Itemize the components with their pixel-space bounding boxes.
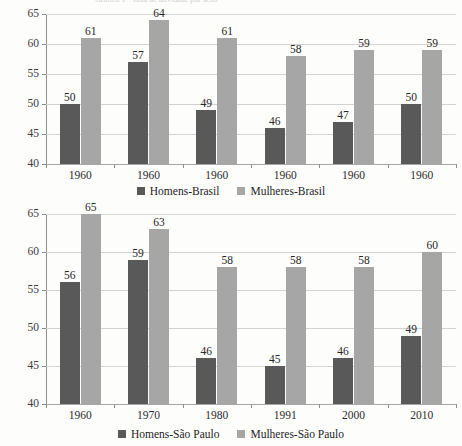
x-axis-label: 1960 [183,169,251,182]
legend-swatch-icon [118,430,126,438]
x-tick [388,404,389,408]
x-tick [388,164,389,168]
y-axis-label-45: 45 [28,360,40,372]
bar-group: 4961 [183,14,251,164]
bar-group: 5665 [46,214,114,404]
bar-group: 4658 [251,14,319,164]
bar-men[interactable]: 46 [265,128,285,164]
legend-item[interactable]: Mulheres-São Paulo [237,428,344,440]
bar-slot: 50 [60,14,80,164]
legend-swatch-icon [237,430,245,438]
y-axis-label-50: 50 [28,322,40,334]
y-axis-label-40: 40 [28,398,40,410]
bar-men[interactable]: 50 [401,104,421,164]
bar-men[interactable]: 50 [60,104,80,164]
bar-men[interactable]: 45 [265,366,285,404]
x-axis-labels-sao-paulo: 196019701980199120002010 [46,409,456,422]
bar-women[interactable]: 60 [422,252,442,404]
bar-slot: 58 [286,14,306,164]
bar-slot: 46 [265,14,285,164]
bar-value-label: 61 [222,25,234,37]
y-axis-label-40: 40 [28,158,40,170]
bar-women[interactable]: 58 [354,267,374,404]
bar-group: 4658 [319,214,387,404]
bar-men[interactable]: 49 [401,336,421,404]
bar-slot: 59 [422,14,442,164]
legend-item[interactable]: Mulheres-Brasil [237,185,325,197]
legend-item[interactable]: Homens-Brasil [137,185,220,197]
x-tick [183,404,184,408]
bar-men[interactable]: 47 [333,122,353,164]
bar-women[interactable]: 59 [422,50,442,164]
x-tick [183,164,184,168]
legend-label: Homens-São Paulo [131,428,219,440]
bar-group: 5963 [114,214,182,404]
bar-group: 5061 [46,14,114,164]
x-tick [456,164,457,168]
bar-women[interactable]: 63 [149,229,169,404]
legend-label: Mulheres-São Paulo [250,428,344,440]
bar-women[interactable]: 58 [286,267,306,404]
bar-men[interactable]: 46 [196,358,216,404]
bar-slot: 60 [422,214,442,404]
bar-value-label: 50 [406,91,418,103]
legend-sao-paulo: Homens-São PauloMulheres-São Paulo [0,428,462,440]
bar-value-label: 61 [85,25,97,37]
bar-women[interactable]: 59 [354,50,374,164]
x-tick [46,404,47,408]
bar-value-label: 65 [85,201,97,213]
bar-slot: 63 [149,214,169,404]
bar-value-label: 49 [406,323,418,335]
bar-men[interactable]: 46 [333,358,353,404]
plot-area-brasil: 656055504540506157644961465847595059 [46,14,456,164]
bar-women[interactable]: 61 [81,38,101,164]
y-axis-label-60: 60 [28,38,40,50]
legend-item[interactable]: Homens-São Paulo [118,428,219,440]
bar-slot: 58 [286,214,306,404]
bar-group: 4558 [251,214,319,404]
bar-value-label: 57 [132,49,144,61]
x-axis-label: 1960 [46,409,114,422]
x-axis-label: 2000 [319,409,387,422]
bar-value-label: 64 [153,7,165,19]
bar-value-label: 58 [358,254,370,266]
bar-women[interactable]: 61 [217,38,237,164]
x-tick [456,404,457,408]
bar-men[interactable]: 56 [60,282,80,404]
x-axis-label: 2010 [388,409,456,422]
clipped-document-title: Gráfico 1 - Taxa de atividade por sexo [95,0,365,5]
bar-value-label: 46 [337,345,349,357]
bar-value-label: 58 [290,254,302,266]
bar-men[interactable]: 59 [128,260,148,404]
x-axis-label: 1960 [319,169,387,182]
bar-women[interactable]: 64 [149,20,169,164]
bar-women[interactable]: 65 [81,214,101,404]
x-axis-label: 1960 [388,169,456,182]
bar-slot: 59 [354,14,374,164]
bar-men[interactable]: 57 [128,62,148,164]
bar-slot: 65 [81,214,101,404]
plot-inner-brasil: 656055504540506157644961465847595059 [46,14,456,164]
x-tick [251,164,252,168]
x-axis-label: 1960 [46,169,114,182]
legend-swatch-icon [237,187,245,195]
bar-slot: 49 [196,14,216,164]
y-axis-label-45: 45 [28,128,40,140]
bar-slot: 46 [333,214,353,404]
chart-page: Gráfico 1 - Taxa de atividade por sexo 6… [0,0,462,446]
bar-men[interactable]: 49 [196,110,216,164]
bar-value-label: 59 [132,247,144,259]
bar-value-label: 46 [201,345,213,357]
bar-women[interactable]: 58 [286,56,306,164]
bar-slot: 61 [81,14,101,164]
y-axis-label-50: 50 [28,98,40,110]
chart-sao-paulo: 656055504540566559634658455846584960 196… [0,206,462,444]
bar-value-label: 63 [153,216,165,228]
x-axis-label: 1960 [114,169,182,182]
bar-value-label: 47 [337,109,349,121]
y-axis-label-65: 65 [28,8,40,20]
x-tick [251,404,252,408]
bar-slot: 57 [128,14,148,164]
bar-women[interactable]: 58 [217,267,237,404]
bar-group: 4658 [183,214,251,404]
